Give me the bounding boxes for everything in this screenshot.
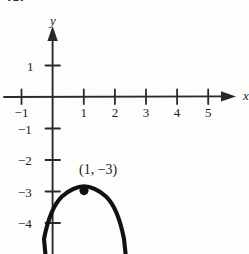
y-tick-label-1: 1	[27, 59, 34, 72]
x-tick-label-neg1: −1	[15, 106, 29, 119]
vertex-point-marker	[79, 186, 88, 195]
x-tick-label-5: 5	[205, 106, 212, 119]
y-tick-label-neg1: −1	[18, 122, 32, 135]
x-tick-label-3: 3	[143, 106, 150, 119]
parabola-curve	[44, 186, 126, 254]
y-tick-label-neg3: −3	[18, 185, 32, 198]
figure-container: 41.	[0, 0, 249, 254]
vertex-coordinate-label: (1, −3)	[79, 163, 117, 177]
y-tick-label-neg4: −4	[18, 217, 32, 230]
coordinate-plot	[0, 0, 249, 254]
x-axis	[4, 91, 236, 101]
x-tick-label-4: 4	[174, 106, 181, 119]
x-axis-label: x	[243, 89, 249, 102]
y-axis-label: y	[50, 14, 56, 27]
x-tick-label-1: 1	[81, 106, 88, 119]
y-tick-label-neg2: −2	[18, 154, 32, 167]
x-tick-label-2: 2	[112, 106, 119, 119]
